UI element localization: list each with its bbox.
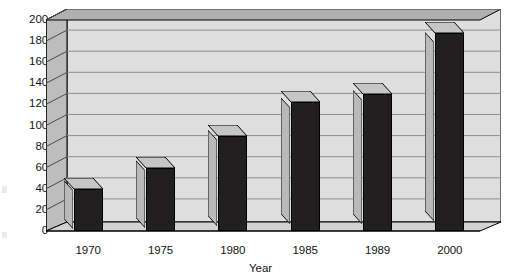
- y-axis-tick-label: 140: [12, 77, 48, 89]
- bar-front-face: [363, 94, 392, 231]
- x-axis-tick-label: 2000: [420, 244, 480, 256]
- bar-front-face: [146, 168, 175, 231]
- bar: [218, 136, 247, 231]
- bar: [435, 33, 464, 231]
- bar-front-face: [435, 33, 464, 231]
- y-axis-tick-label: 100: [12, 120, 48, 132]
- bar-side-face: [353, 83, 362, 231]
- x-axis-title: Year: [0, 262, 521, 274]
- y-axis-tick-label: 0: [12, 225, 48, 237]
- bar-side-face: [281, 91, 290, 231]
- y-axis-tick-labels: 200180160140120100806040200: [0, 0, 48, 280]
- y-axis-tick-label: 120: [12, 98, 48, 110]
- bar: [74, 189, 103, 231]
- y-axis-tick-label: 200: [12, 14, 48, 26]
- bar-side-face: [425, 22, 434, 231]
- y-axis-tick-label: 160: [12, 56, 48, 68]
- y-axis-tick-label: 180: [12, 35, 48, 47]
- bar-side-face: [208, 125, 217, 231]
- y-axis-tick-label: 80: [12, 141, 48, 153]
- bar: [146, 168, 175, 231]
- y-axis-tick-label: 60: [12, 162, 48, 174]
- x-axis-tick-label: 1980: [203, 244, 263, 256]
- bar-chart: 200180160140120100806040200 197019751980…: [0, 0, 521, 280]
- x-axis-tick-label: 1985: [275, 244, 335, 256]
- y-axis-tick-label: 40: [12, 183, 48, 195]
- bar: [291, 102, 320, 231]
- bar-front-face: [218, 136, 247, 231]
- x-axis-tick-label: 1970: [58, 244, 118, 256]
- y-axis-tick-label: 20: [12, 204, 48, 216]
- bar-front-face: [291, 102, 320, 231]
- bar-front-face: [74, 189, 103, 231]
- plot-area: [46, 9, 501, 235]
- x-axis-tick-labels: 197019751980198519892000: [0, 244, 521, 260]
- bar: [363, 94, 392, 231]
- x-axis-tick-label: 1975: [131, 244, 191, 256]
- x-axis-tick-label: 1989: [348, 244, 408, 256]
- bar-series: [46, 9, 501, 235]
